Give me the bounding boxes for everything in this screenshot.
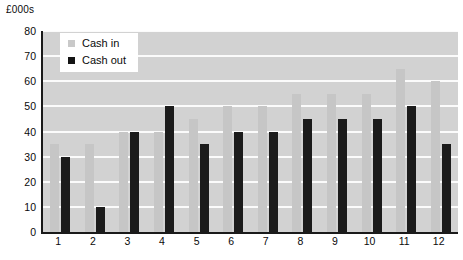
- x-axis-tick-labels: 123456789101112: [41, 236, 456, 254]
- x-axis-tick: 8: [297, 236, 303, 247]
- x-axis-tick: 12: [433, 236, 445, 247]
- x-axis-tick: 4: [159, 236, 165, 247]
- bar-cash-out: [442, 144, 451, 232]
- bar-cash-in: [154, 132, 163, 233]
- bar-cash-out: [269, 132, 278, 233]
- legend-label-cash-out: Cash out: [82, 55, 126, 66]
- y-axis-tick: 20: [24, 177, 36, 188]
- y-axis-tick: 10: [24, 202, 36, 213]
- bar-cash-in: [292, 94, 301, 232]
- bar-cash-in: [50, 144, 59, 232]
- y-axis-tick: 70: [24, 51, 36, 62]
- bar-cash-in: [327, 94, 336, 232]
- bar-cash-out: [303, 119, 312, 232]
- bar-cash-in: [396, 69, 405, 232]
- bar-cash-out: [200, 144, 209, 232]
- bar-cash-in: [223, 106, 232, 232]
- y-axis-tick: 30: [24, 151, 36, 162]
- bar-cash-out: [407, 106, 416, 232]
- x-axis-tick: 11: [399, 236, 410, 247]
- legend-label-cash-in: Cash in: [82, 38, 119, 49]
- y-axis-tick: 0: [30, 227, 36, 238]
- legend-item-cash-in: Cash in: [68, 38, 126, 49]
- bar-cash-out: [234, 132, 243, 233]
- chart-legend: Cash in Cash out: [60, 33, 138, 72]
- bar-cash-out: [96, 207, 105, 232]
- x-axis-tick: 9: [332, 236, 338, 247]
- y-axis-tick: 60: [24, 76, 36, 87]
- x-axis-tick: 2: [90, 236, 96, 247]
- square-swatch-icon: [68, 40, 75, 47]
- bar-cash-out: [165, 106, 174, 232]
- bar-cash-out: [130, 132, 139, 233]
- gridline: [43, 31, 458, 32]
- x-axis-tick: 3: [125, 236, 131, 247]
- x-axis-tick: 7: [263, 236, 269, 247]
- bar-cash-in: [431, 81, 440, 232]
- x-axis-tick: 10: [364, 236, 376, 247]
- y-axis-tick: 80: [24, 26, 36, 37]
- bar-cash-in: [362, 94, 371, 232]
- y-axis-tick-labels: 01020304050607080: [6, 31, 36, 232]
- x-axis-tick: 5: [194, 236, 200, 247]
- bar-cash-in: [258, 106, 267, 232]
- y-axis-tick: 40: [24, 126, 36, 137]
- bar-cash-out: [373, 119, 382, 232]
- bar-cash-out: [338, 119, 347, 232]
- bar-cash-in: [119, 132, 128, 233]
- bar-cash-in: [85, 144, 94, 232]
- cash-flow-bar-chart: £000s 01020304050607080 Cash in Cash out…: [0, 0, 463, 260]
- x-axis-tick: 6: [228, 236, 234, 247]
- x-axis-tick: 1: [55, 236, 61, 247]
- bar-cash-out: [61, 157, 70, 232]
- legend-item-cash-out: Cash out: [68, 55, 126, 66]
- bar-cash-in: [189, 119, 198, 232]
- y-axis-tick: 50: [24, 101, 36, 112]
- square-swatch-icon: [68, 57, 75, 64]
- y-axis-unit-label: £000s: [6, 4, 34, 15]
